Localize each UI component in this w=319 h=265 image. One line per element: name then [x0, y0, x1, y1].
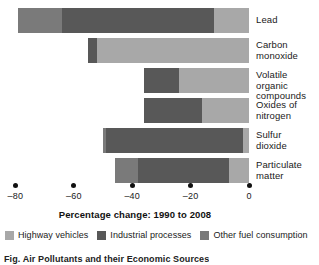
x-axis-tick: –60: [54, 183, 94, 201]
legend-color-swatch: [200, 231, 209, 240]
bar-segment: [179, 68, 249, 93]
tick-label: –40: [112, 191, 152, 201]
tick-label: –20: [171, 191, 211, 201]
bar-segment: [243, 128, 249, 153]
legend-label: Highway vehicles: [18, 230, 88, 240]
legend-item: Highway vehicles: [5, 230, 88, 240]
bar-segment: [103, 128, 106, 153]
category-label: Carbon monoxide: [256, 40, 298, 61]
legend-label: Other fuel consumption: [213, 230, 307, 240]
x-axis-tick: –80: [0, 183, 35, 201]
x-axis-tick: –20: [171, 183, 211, 201]
category-label: Sulfur dioxide: [256, 130, 287, 151]
tick-label: –60: [54, 191, 94, 201]
category-label: Lead: [256, 15, 278, 26]
tick-dot-icon: [188, 183, 193, 188]
bar-segment: [115, 158, 138, 183]
legend-item: Other fuel consumption: [200, 230, 307, 240]
tick-dot-icon: [130, 183, 135, 188]
x-axis-tick: –40: [112, 183, 152, 201]
chart-legend: Highway vehiclesIndustrial processesOthe…: [5, 230, 315, 240]
legend-color-swatch: [97, 231, 106, 240]
plot-area: LeadCarbon monoxideVolatile organic comp…: [0, 0, 319, 183]
bar-row: Lead: [0, 8, 319, 33]
bar-segment: [144, 68, 179, 93]
bar-segment: [18, 8, 62, 33]
bar-row: Sulfur dioxide: [0, 128, 319, 153]
bar-segment: [214, 8, 249, 33]
tick-label: 0: [229, 191, 269, 201]
x-axis-tick: 0: [229, 183, 269, 201]
air-pollutants-stacked-bar-chart: LeadCarbon monoxideVolatile organic comp…: [0, 0, 319, 265]
tick-dot-icon: [13, 183, 18, 188]
tick-dot-icon: [71, 183, 76, 188]
bar-segment: [88, 38, 97, 63]
bar-row: Carbon monoxide: [0, 38, 319, 63]
bar-segment: [97, 38, 249, 63]
legend-item: Industrial processes: [97, 230, 191, 240]
category-label: Volatile organic compounds: [256, 70, 319, 102]
category-label: Oxides of nitrogen: [256, 100, 297, 121]
legend-label: Industrial processes: [110, 230, 191, 240]
bar-row: Oxides of nitrogen: [0, 98, 319, 123]
tick-dot-icon: [247, 183, 252, 188]
bar-segment: [144, 98, 202, 123]
x-axis-title: Percentage change: 1990 to 2008: [0, 209, 270, 220]
tick-label: –80: [0, 191, 35, 201]
category-label: Particulate matter: [256, 160, 302, 181]
legend-color-swatch: [5, 231, 14, 240]
bar-row: Particulate matter: [0, 158, 319, 183]
bar-segment: [202, 98, 249, 123]
bar-row: Volatile organic compounds: [0, 68, 319, 93]
bar-segment: [62, 8, 214, 33]
bar-segment: [106, 128, 243, 153]
bar-segment: [229, 158, 249, 183]
figure-caption: Fig. Air Pollutants and their Economic S…: [4, 254, 209, 265]
bar-segment: [138, 158, 229, 183]
x-axis: –80–60–40–200: [0, 183, 319, 209]
